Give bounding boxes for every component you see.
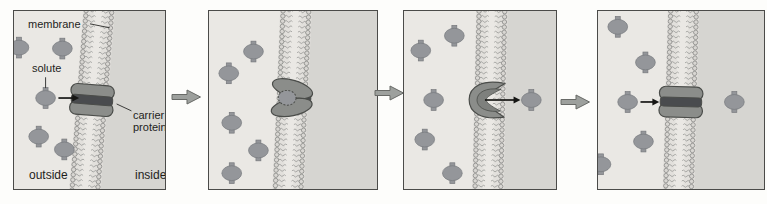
solute-molecule [618, 92, 638, 113]
solute-molecule [54, 139, 74, 160]
label-outside: outside [29, 170, 68, 181]
solute-molecule [14, 37, 29, 58]
solute-molecule [244, 41, 264, 62]
solute-direction-arrow-icon [640, 98, 659, 105]
solute-molecule [636, 52, 656, 73]
solute-molecule [222, 163, 242, 184]
panel-canvas-4 [598, 11, 764, 189]
step-arrow-2-icon [374, 84, 405, 102]
carrier-protein-closed [69, 83, 115, 117]
carrier-protein-closed [659, 86, 703, 118]
step-arrow-1-icon [171, 88, 202, 106]
solute-molecule [52, 38, 72, 59]
panel-canvas-1 [14, 11, 165, 189]
cell-membrane [262, 11, 377, 189]
step-arrow-3-icon [560, 93, 591, 111]
panel-canvas-3 [404, 11, 556, 189]
solute-molecule [598, 154, 611, 175]
label-carrier-protein: carrier protein [133, 109, 166, 133]
solute-molecule [424, 90, 444, 111]
solute-molecule [411, 40, 431, 61]
solute-molecule [444, 25, 464, 46]
figure-carrier-protein-transport: membrane solute carrier protein outside … [0, 0, 767, 204]
panel-step-2 [208, 10, 378, 190]
panel-step-1: membrane solute carrier protein outside … [13, 10, 166, 190]
panel-step-4 [597, 10, 765, 190]
solute-molecule [442, 163, 462, 184]
panel-step-3 [403, 10, 557, 190]
solute-molecule [249, 140, 269, 161]
solute-molecule [608, 16, 628, 37]
label-inside: inside [135, 170, 166, 181]
solute-molecule [634, 131, 654, 152]
solute-molecule [219, 63, 239, 84]
solute-molecule [222, 112, 242, 133]
label-solute: solute [32, 63, 61, 74]
label-membrane: membrane [28, 19, 81, 30]
solute-molecule [36, 88, 56, 109]
panel-canvas-2 [209, 11, 377, 189]
solute-molecule [415, 129, 435, 150]
cell-membrane [654, 11, 764, 189]
solute-molecule [29, 126, 49, 147]
